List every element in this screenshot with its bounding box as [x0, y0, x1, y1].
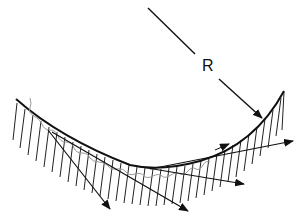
surface-hatching: [13, 92, 284, 206]
diagram-canvas: [0, 0, 302, 222]
scatter-arrow-4: [150, 141, 293, 169]
radius-arrow: [219, 79, 262, 118]
curved-surface: [16, 91, 284, 168]
radius-line: [148, 8, 195, 54]
